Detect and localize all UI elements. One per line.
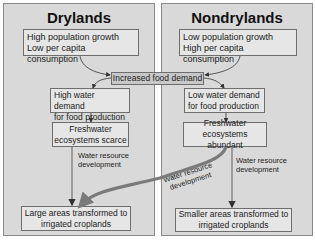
drylands-driver-arrow xyxy=(80,56,110,75)
flow-arrows xyxy=(0,0,315,241)
cross-development-arrow xyxy=(82,147,226,204)
food-to-drylands-arrow xyxy=(93,78,111,88)
nondrylands-driver-arrow xyxy=(205,56,240,75)
food-to-nondrylands-arrow xyxy=(204,78,224,88)
